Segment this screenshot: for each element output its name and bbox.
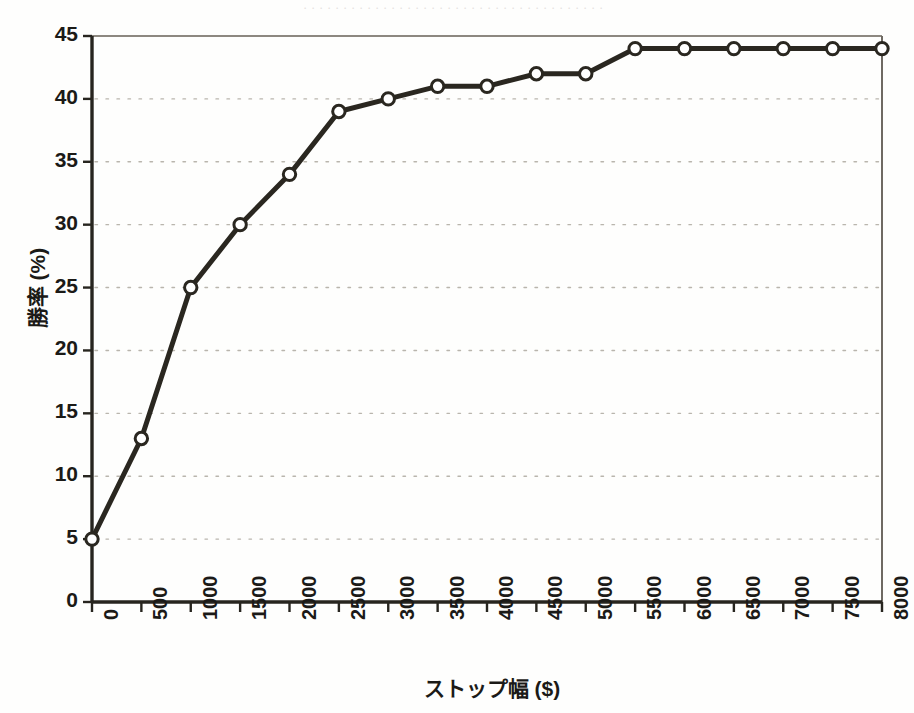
data-series-line <box>92 49 882 540</box>
x-tick-label: 8000 <box>890 576 913 621</box>
x-tick-label: 4000 <box>495 576 518 621</box>
y-tick-label: 25 <box>22 274 78 298</box>
x-tick-label: 5500 <box>643 576 666 621</box>
data-point <box>333 105 345 117</box>
x-tick-label: 6500 <box>742 576 765 621</box>
data-point <box>283 168 295 180</box>
data-point <box>185 281 197 293</box>
line-chart: 勝率 (%) ストップ幅 ($) 051015202530354045 0500… <box>0 0 914 713</box>
y-tick-label: 15 <box>22 399 78 423</box>
data-point-markers <box>86 42 888 545</box>
data-point <box>629 42 641 54</box>
data-point <box>826 42 838 54</box>
gridlines <box>95 99 879 539</box>
x-tick-label: 5000 <box>594 576 617 621</box>
x-tick-label: 1500 <box>248 576 271 621</box>
data-point <box>728 42 740 54</box>
y-tick-label: 5 <box>22 525 78 549</box>
x-tick-label: 1000 <box>199 576 222 621</box>
x-axis-title: ストップ幅 ($) <box>0 672 914 702</box>
x-tick-label: 0 <box>100 609 123 620</box>
data-point <box>678 42 690 54</box>
data-point <box>86 533 98 545</box>
x-tick-label: 2500 <box>347 576 370 621</box>
data-point <box>431 80 443 92</box>
y-tick-label: 40 <box>22 85 78 109</box>
x-tick-label: 6000 <box>693 576 716 621</box>
data-point <box>580 68 592 80</box>
figure-page: ．．．．．．．．．．．．．．．．．．．．．．．．．．．．．．．．．．．．．． 勝… <box>0 0 914 713</box>
x-tick-label: 2000 <box>298 576 321 621</box>
data-point <box>530 68 542 80</box>
x-tick-label: 7500 <box>841 576 864 621</box>
data-point <box>777 42 789 54</box>
y-tick-label: 45 <box>22 22 78 46</box>
y-tick-label: 30 <box>22 211 78 235</box>
x-tick-label: 3500 <box>446 576 469 621</box>
y-tick-label: 20 <box>22 336 78 360</box>
plot-frame <box>92 36 882 602</box>
y-tick-label: 35 <box>22 148 78 172</box>
data-point <box>481 80 493 92</box>
x-tick-label: 4500 <box>544 576 567 621</box>
y-tick-label: 10 <box>22 462 78 486</box>
data-point <box>876 42 888 54</box>
data-point <box>234 218 246 230</box>
y-tick-label: 0 <box>22 588 78 612</box>
x-tick-label: 7000 <box>791 576 814 621</box>
data-point <box>382 93 394 105</box>
x-tick-label: 3000 <box>396 576 419 621</box>
x-tick-label: 500 <box>149 587 172 620</box>
data-point <box>135 432 147 444</box>
